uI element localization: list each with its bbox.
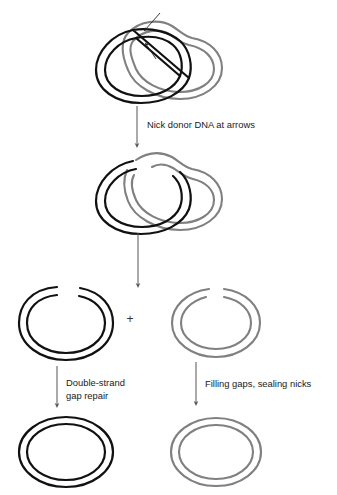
black-inner-strand-nicked-cont bbox=[173, 176, 182, 207]
structure-gray-closed-circle bbox=[171, 418, 261, 486]
gray-outer-strand-nicked bbox=[124, 153, 222, 230]
plus-sign: + bbox=[126, 312, 133, 326]
black-closed-inner bbox=[27, 424, 105, 480]
gray-nicked-outer bbox=[172, 289, 260, 357]
gray-closed-outer bbox=[171, 418, 261, 486]
structure-black-closed-circle bbox=[19, 417, 113, 487]
structure-black-gapped-circle bbox=[19, 287, 113, 360]
recipient-duplex-black-nicked bbox=[96, 161, 191, 234]
dna-gap-repair-diagram: Nick donor DNA at arrows bbox=[0, 0, 337, 495]
gray-inner-strand-nicked bbox=[132, 164, 214, 223]
black-gapped-inner bbox=[27, 295, 105, 353]
structure-joint-molecule bbox=[96, 13, 222, 103]
structure-gray-nicked-circle bbox=[172, 289, 260, 357]
black-gapped-outer bbox=[19, 287, 113, 360]
label-filling-sealing: Filling gaps, sealing nicks bbox=[205, 378, 312, 389]
black-inner-strand-cont bbox=[136, 37, 182, 76]
label-gap-repair: gap repair bbox=[66, 390, 108, 401]
structure-nicked-joint-molecule bbox=[96, 153, 222, 234]
label-double-strand: Double-strand bbox=[66, 377, 125, 388]
gray-closed-inner bbox=[179, 425, 253, 479]
recipient-duplex-black bbox=[96, 29, 191, 103]
black-closed-outer bbox=[19, 417, 113, 487]
gray-nicked-inner bbox=[181, 297, 251, 349]
label-nick-donor: Nick donor DNA at arrows bbox=[147, 119, 255, 130]
figure-root: Nick donor DNA at arrows bbox=[0, 0, 337, 495]
donor-duplex-gray-nicked bbox=[124, 153, 222, 230]
